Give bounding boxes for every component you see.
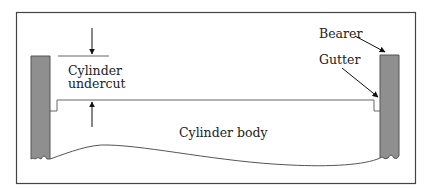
cylinder-diagram: Cylinder undercut Cylinder body Bearer G…	[0, 0, 434, 188]
bearer-leader-arrow-icon	[355, 36, 385, 52]
right-bearer	[380, 55, 399, 159]
left-bearer	[31, 56, 50, 159]
bearer-label: Bearer	[319, 26, 362, 41]
gutter-label: Gutter	[319, 52, 360, 67]
cylinder-body-break-line	[50, 145, 380, 166]
undercut-label-line2: undercut	[68, 76, 126, 91]
gutter-leader-arrow-icon	[342, 68, 378, 97]
cylinder-body-label: Cylinder body	[179, 125, 269, 140]
cylinder-body-outline	[50, 100, 380, 111]
